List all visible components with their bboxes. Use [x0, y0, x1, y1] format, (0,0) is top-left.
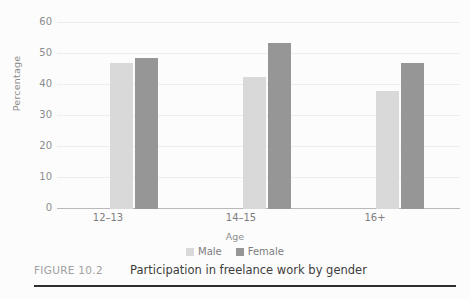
- figure-caption: FIGURE 10.2 Participation in freelance w…: [0, 263, 470, 293]
- bar-male-16-plus[interactable]: [376, 91, 399, 209]
- bar-group-12-13: [73, 0, 194, 209]
- y-tick-label-40: 40: [22, 79, 52, 89]
- y-tick-label-60: 60: [22, 17, 52, 27]
- chart-legend: Male Female: [0, 246, 470, 257]
- legend-label-male: Male: [198, 246, 222, 257]
- x-tick-label-14-15: 14–15: [201, 212, 281, 223]
- bar-group-14-15: [206, 0, 327, 209]
- legend-item-female[interactable]: Female: [236, 246, 284, 257]
- legend-swatch-female-icon: [236, 248, 244, 256]
- bar-female-12-13[interactable]: [135, 58, 158, 209]
- caption-divider: [34, 285, 456, 287]
- figure-caption-text: Participation in freelance work by gende…: [130, 263, 367, 277]
- legend-swatch-male-icon: [186, 248, 194, 256]
- y-axis-label: Percentage: [11, 36, 22, 132]
- bar-group-16-plus: [339, 0, 460, 209]
- y-tick-label-10: 10: [22, 172, 52, 182]
- chart-plot-area: Percentage 60 50 40 30 20 10 0: [0, 0, 470, 245]
- y-tick-label-0: 0: [22, 203, 52, 213]
- bar-male-14-15[interactable]: [243, 77, 266, 209]
- y-tick-label-50: 50: [22, 48, 52, 58]
- x-tick-label-12-13: 12–13: [68, 212, 148, 223]
- legend-label-female: Female: [248, 246, 284, 257]
- figure-number: FIGURE 10.2: [34, 264, 130, 276]
- bar-female-16-plus[interactable]: [401, 63, 424, 209]
- bar-male-12-13[interactable]: [110, 63, 133, 209]
- figure-container: Percentage 60 50 40 30 20 10 0: [0, 0, 470, 299]
- bars-layer: [57, 0, 460, 209]
- x-axis-label: Age: [0, 231, 470, 242]
- legend-item-male[interactable]: Male: [186, 246, 222, 257]
- x-tick-label-16-plus: 16+: [335, 212, 415, 223]
- bar-female-14-15[interactable]: [268, 43, 291, 209]
- y-tick-label-30: 30: [22, 110, 52, 120]
- y-tick-label-20: 20: [22, 141, 52, 151]
